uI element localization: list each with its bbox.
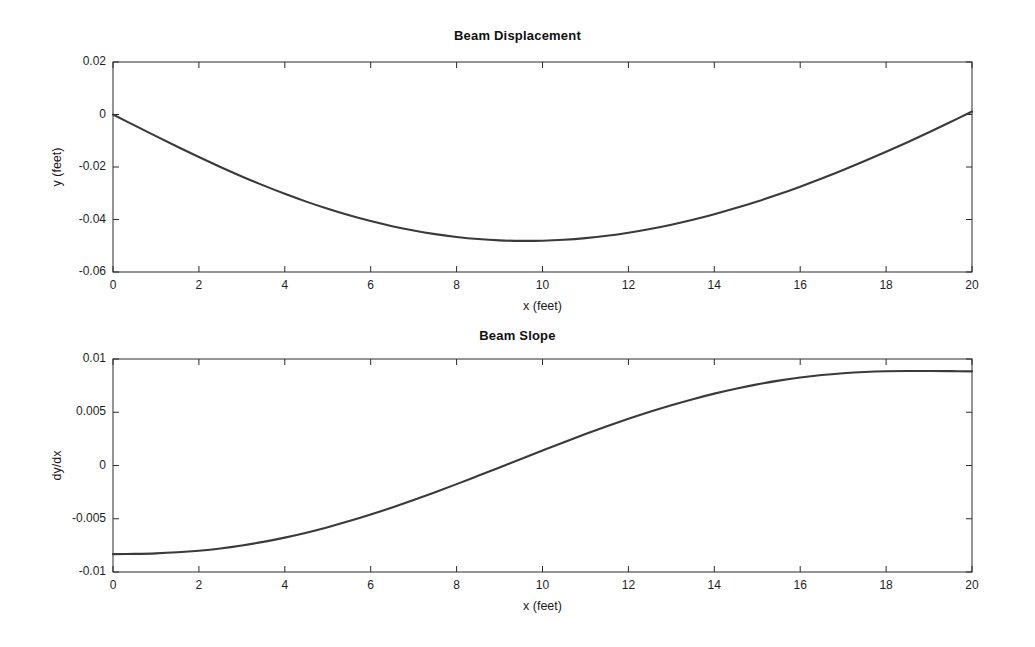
x-tick-label: 2 — [196, 278, 203, 292]
axes-displacement: 024681012141618200.020-0.02-0.04-0.06x (… — [0, 0, 1035, 337]
x-tick-label: 18 — [879, 578, 893, 592]
x-tick-label: 10 — [536, 278, 550, 292]
matlab-figure: Beam Displacement 024681012141618200.020… — [0, 0, 1035, 647]
x-tick-label: 8 — [453, 278, 460, 292]
x-tick-label: 0 — [110, 278, 117, 292]
y-tick-label: 0 — [99, 458, 106, 472]
subplot-beam-slope: Beam Slope 024681012141618200.010.0050-0… — [0, 310, 1035, 647]
x-tick-label: 4 — [281, 278, 288, 292]
plot-box-frame — [113, 359, 972, 572]
x-tick-label: 14 — [708, 578, 722, 592]
data-curve-dydx — [113, 371, 972, 554]
x-tick-label: 10 — [536, 578, 550, 592]
axes-slope: 024681012141618200.010.0050-0.005-0.01x … — [0, 310, 1035, 647]
x-tick-label: 12 — [622, 278, 636, 292]
y-tick-label: -0.04 — [79, 212, 107, 226]
y-tick-label: -0.06 — [79, 264, 107, 278]
y-axis-title: y (feet) — [50, 148, 64, 187]
y-tick-label: 0 — [99, 107, 106, 121]
x-tick-label: 16 — [794, 578, 808, 592]
subplot-beam-displacement: Beam Displacement 024681012141618200.020… — [0, 0, 1035, 320]
x-tick-label: 12 — [622, 578, 636, 592]
x-tick-label: 6 — [367, 578, 374, 592]
x-tick-label: 18 — [879, 278, 893, 292]
y-tick-label: 0.02 — [83, 54, 107, 68]
y-tick-label: -0.005 — [72, 511, 106, 525]
y-tick-label: -0.01 — [79, 564, 107, 578]
x-tick-label: 20 — [965, 278, 979, 292]
x-axis-title: x (feet) — [523, 599, 562, 613]
x-tick-label: 8 — [453, 578, 460, 592]
x-tick-label: 14 — [708, 278, 722, 292]
data-curve-y — [113, 112, 972, 241]
x-tick-label: 2 — [196, 578, 203, 592]
y-tick-label: 0.005 — [76, 404, 106, 418]
x-tick-label: 4 — [281, 578, 288, 592]
x-tick-label: 6 — [367, 278, 374, 292]
y-axis-title: dy/dx — [50, 450, 64, 481]
y-tick-label: 0.01 — [83, 351, 107, 365]
x-tick-label: 20 — [965, 578, 979, 592]
x-tick-label: 16 — [794, 278, 808, 292]
x-tick-label: 0 — [110, 578, 117, 592]
y-tick-label: -0.02 — [79, 159, 107, 173]
